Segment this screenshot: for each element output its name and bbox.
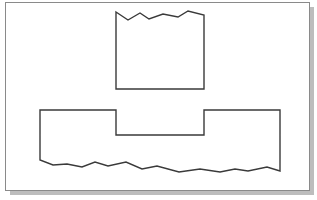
diagram-canvas bbox=[0, 0, 317, 200]
diagram-stage bbox=[0, 0, 317, 200]
drawing-frame bbox=[6, 3, 310, 191]
